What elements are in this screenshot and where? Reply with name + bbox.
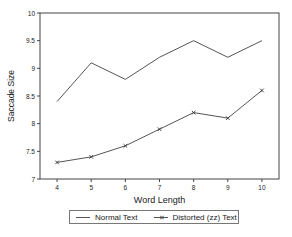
y-tick-label: 10 xyxy=(28,10,36,17)
legend: Normal Text ✕ Distorted (zz) Text xyxy=(69,210,239,224)
y-tick-label: 8 xyxy=(31,120,35,127)
x-tick-label: 8 xyxy=(192,184,196,191)
plot-area: 77.588.599.51045678910Word LengthSaccade… xyxy=(0,0,292,237)
line-x-marker-icon: ✕ xyxy=(154,213,168,221)
x-tick-label: 5 xyxy=(89,184,93,191)
y-tick-label: 8.5 xyxy=(26,93,35,100)
x-tick-label: 9 xyxy=(226,184,230,191)
y-axis-label: Saccade Size xyxy=(6,70,16,122)
legend-label: Normal Text xyxy=(95,213,138,222)
x-marker-icon xyxy=(260,89,264,93)
x-marker-icon xyxy=(158,127,162,131)
line-swatch-icon xyxy=(76,213,90,221)
x-tick-label: 7 xyxy=(158,184,162,191)
y-tick-label: 7 xyxy=(31,176,35,183)
series-line-0 xyxy=(57,41,262,102)
chart: 77.588.599.51045678910Word LengthSaccade… xyxy=(0,0,292,237)
legend-label: Distorted (zz) Text xyxy=(173,213,237,222)
y-tick-label: 7.5 xyxy=(26,148,35,155)
y-tick-label: 9 xyxy=(31,65,35,72)
x-tick-label: 4 xyxy=(55,184,59,191)
legend-item-normal: Normal Text xyxy=(76,213,138,222)
series-line-1 xyxy=(57,90,262,162)
legend-item-distorted: ✕ Distorted (zz) Text xyxy=(154,213,237,222)
y-tick-label: 9.5 xyxy=(26,37,35,44)
x-axis-label: Word Length xyxy=(134,195,185,205)
plot-frame xyxy=(40,13,279,179)
x-tick-label: 10 xyxy=(258,184,266,191)
x-tick-label: 6 xyxy=(124,184,128,191)
